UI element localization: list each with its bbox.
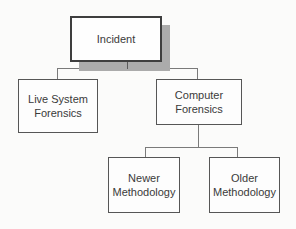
node-live-system-forensics-label-line2: Forensics (34, 106, 82, 120)
node-live-system-forensics-label-line1: Live System (28, 92, 88, 106)
node-newer-methodology-label-line1: Newer (128, 171, 160, 185)
node-incident: Incident (70, 16, 162, 62)
node-older-methodology-label-line1: Older (231, 171, 258, 185)
node-computer-forensics-label-line2: Forensics (175, 102, 223, 116)
node-older-methodology-label-line2: Methodology (213, 185, 276, 199)
node-newer-methodology: Newer Methodology (108, 157, 180, 213)
node-live-system-forensics: Live System Forensics (18, 79, 98, 133)
node-newer-methodology-label-line2: Methodology (113, 185, 176, 199)
org-chart-diagram: Incident Live System Forensics Computer … (0, 0, 296, 229)
node-computer-forensics-label-line1: Computer (175, 88, 223, 102)
node-older-methodology: Older Methodology (209, 157, 280, 213)
connector-computer-stem (198, 124, 199, 148)
node-incident-label: Incident (97, 32, 136, 46)
node-computer-forensics: Computer Forensics (156, 79, 242, 125)
connector-level2-rail (145, 147, 238, 148)
